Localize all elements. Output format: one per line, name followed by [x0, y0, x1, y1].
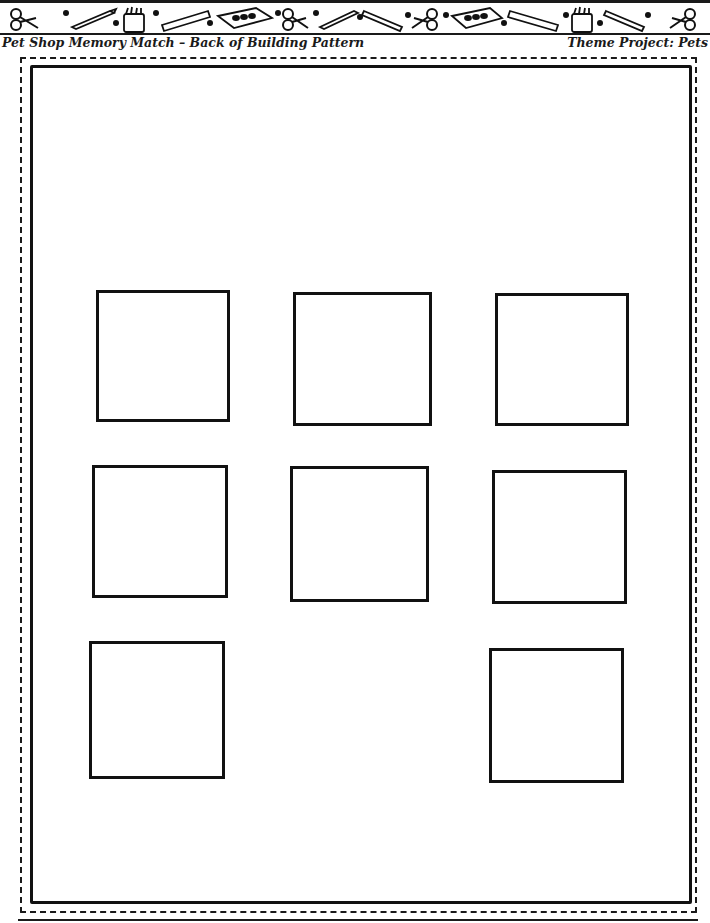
window-cutout-4 [92, 465, 228, 598]
scissors-icon [11, 9, 38, 30]
scissors-icon [283, 9, 308, 30]
ruler-icon [508, 11, 558, 31]
pencil-icon [362, 11, 402, 31]
window-cutout-8 [489, 648, 624, 783]
bottom-rule [18, 919, 698, 921]
scissors-icon [670, 9, 695, 30]
page-title: Pet Shop Memory Match – Back of Building… [2, 35, 364, 50]
pencil-icon [604, 11, 644, 31]
window-cutout-7 [89, 641, 225, 779]
window-cutout-3 [495, 293, 629, 426]
window-cutout-2 [293, 292, 432, 426]
crayon-box-icon [124, 7, 144, 32]
ruler-icon [162, 11, 210, 31]
scissors-icon [412, 9, 437, 30]
pencil-icon [320, 11, 358, 29]
paint-set-icon [218, 8, 272, 28]
window-cutout-1 [96, 290, 230, 422]
paint-set-icon [452, 8, 502, 28]
pencil-icon [72, 9, 116, 29]
crayon-box-icon [572, 7, 592, 32]
window-cutout-5 [290, 466, 429, 602]
school-supplies-banner [0, 3, 710, 33]
theme-label: Theme Project: Pets [567, 35, 708, 50]
window-cutout-6 [492, 470, 627, 604]
